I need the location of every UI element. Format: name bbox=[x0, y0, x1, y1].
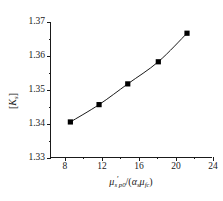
x-tick-label: 16 bbox=[134, 162, 144, 172]
y-tick-major bbox=[47, 22, 51, 23]
x-axis-label: μs′p0/(αsμfc) bbox=[50, 176, 212, 188]
y-tick-minor bbox=[49, 73, 51, 74]
y-label-close-bracket: ] bbox=[7, 92, 18, 95]
y-tick-label: 1.35 bbox=[28, 85, 45, 95]
x-tick-label: 24 bbox=[208, 162, 218, 172]
x-tick-label: 8 bbox=[63, 162, 68, 172]
y-tick-label: 1.36 bbox=[28, 51, 45, 61]
plot-area: 1.331.341.351.361.37812162024 bbox=[50, 22, 212, 158]
y-tick-minor bbox=[49, 107, 51, 108]
y-tick-minor bbox=[49, 141, 51, 142]
x-label-close: ) bbox=[149, 176, 152, 187]
y-tick-major bbox=[47, 90, 51, 91]
y-tick-label: 1.37 bbox=[28, 17, 45, 27]
y-tick-label: 1.33 bbox=[28, 153, 45, 163]
y-tick-major bbox=[47, 56, 51, 57]
y-label-symbol: K bbox=[7, 98, 18, 105]
y-tick-major bbox=[47, 158, 51, 159]
y-tick-major bbox=[47, 124, 51, 125]
x-tick-label: 12 bbox=[97, 162, 107, 172]
x-tick-minor bbox=[120, 157, 121, 159]
x-tick-minor bbox=[194, 157, 195, 159]
x-tick-minor bbox=[157, 157, 158, 159]
y-axis-label: [Ks] bbox=[8, 92, 20, 108]
x-label-sub1b: p0 bbox=[119, 181, 126, 188]
x-tick-minor bbox=[83, 157, 84, 159]
figure-canvas: [Ks] μs′p0/(αsμfc) 1.331.341.351.361.378… bbox=[0, 0, 223, 201]
y-tick-minor bbox=[49, 39, 51, 40]
y-tick-label: 1.34 bbox=[28, 119, 45, 129]
x-tick-label: 20 bbox=[171, 162, 181, 172]
